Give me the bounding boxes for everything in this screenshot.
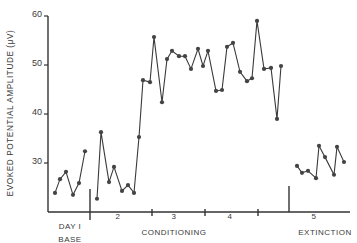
data-point xyxy=(206,49,210,53)
data-point xyxy=(335,145,339,149)
data-series xyxy=(53,19,346,201)
data-point xyxy=(95,197,99,201)
data-point xyxy=(231,41,235,45)
data-point xyxy=(220,88,224,92)
data-point xyxy=(83,149,87,153)
y-ticks: 30405060 xyxy=(32,9,48,166)
data-point xyxy=(225,45,229,49)
data-point xyxy=(183,54,187,58)
data-point xyxy=(112,165,116,169)
x-label: 2 xyxy=(116,212,121,221)
data-point xyxy=(238,70,242,74)
data-point xyxy=(53,191,57,195)
x-label: 5 xyxy=(312,212,317,221)
data-point xyxy=(64,170,68,174)
series-line xyxy=(55,151,85,195)
data-point xyxy=(120,189,124,193)
data-point xyxy=(279,64,283,68)
data-point xyxy=(148,80,152,84)
y-tick-label: 30 xyxy=(32,156,42,166)
x-label: EXTINCTION xyxy=(298,228,351,237)
data-point xyxy=(262,67,266,71)
data-point xyxy=(107,180,111,184)
data-point xyxy=(201,64,205,68)
data-point xyxy=(170,49,174,53)
series-line xyxy=(97,21,281,199)
data-point xyxy=(245,79,249,83)
data-point xyxy=(269,66,273,70)
x-label: CONDITIONING xyxy=(141,228,206,237)
x-axis xyxy=(48,186,350,220)
data-point xyxy=(314,176,318,180)
x-label: 4 xyxy=(228,212,233,221)
data-point xyxy=(152,35,156,39)
data-point xyxy=(126,183,130,187)
data-point xyxy=(160,100,164,104)
series-line xyxy=(297,146,344,178)
data-point xyxy=(323,155,327,159)
data-point xyxy=(141,78,145,82)
x-label: 3 xyxy=(172,212,177,221)
data-point xyxy=(295,164,299,168)
data-point xyxy=(306,169,310,173)
data-point xyxy=(137,135,141,139)
x-label: BASE xyxy=(58,235,81,243)
data-point xyxy=(317,144,321,148)
y-tick-label: 50 xyxy=(32,58,42,68)
data-point xyxy=(58,177,62,181)
data-point xyxy=(255,19,259,23)
data-point xyxy=(275,117,279,121)
y-tick-label: 60 xyxy=(32,9,42,19)
data-point xyxy=(165,57,169,61)
data-point xyxy=(71,193,75,197)
y-axis-label: EVOKED POTENTIAL AMPLITUDE (μV) xyxy=(6,30,15,197)
data-point xyxy=(214,89,218,93)
evoked-potential-chart: EVOKED POTENTIAL AMPLITUDE (μV) 30405060… xyxy=(0,0,357,243)
data-point xyxy=(300,171,304,175)
data-point xyxy=(342,160,346,164)
data-point xyxy=(250,76,254,80)
x-labels: DAY I2345BASECONDITIONINGEXTINCTION xyxy=(58,212,351,243)
data-point xyxy=(77,181,81,185)
data-point xyxy=(332,173,336,177)
data-point xyxy=(132,191,136,195)
data-point xyxy=(177,54,181,58)
y-tick-label: 40 xyxy=(32,107,42,117)
data-point xyxy=(196,47,200,51)
data-point xyxy=(189,67,193,71)
data-point xyxy=(99,130,103,134)
x-label: DAY I xyxy=(59,222,82,231)
